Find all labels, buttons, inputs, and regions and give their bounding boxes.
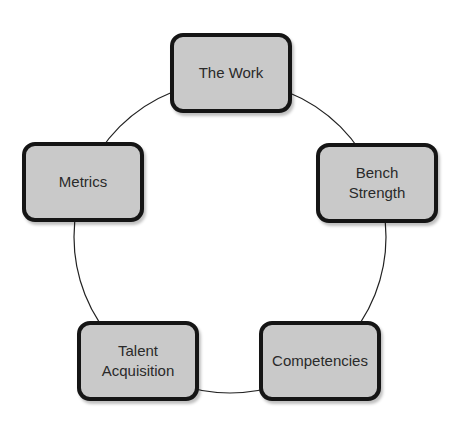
node-label: Talent Acquisition — [102, 341, 175, 381]
node-label: Competencies — [272, 351, 368, 371]
node-the-work: The Work — [170, 33, 292, 113]
node-talent-acquisition: Talent Acquisition — [77, 321, 199, 401]
node-competencies: Competencies — [259, 321, 381, 401]
node-label: Metrics — [59, 172, 107, 192]
node-bench-strength: Bench Strength — [316, 143, 438, 223]
node-label: Bench Strength — [349, 163, 406, 203]
node-metrics: Metrics — [22, 142, 144, 222]
node-label: The Work — [199, 63, 264, 83]
